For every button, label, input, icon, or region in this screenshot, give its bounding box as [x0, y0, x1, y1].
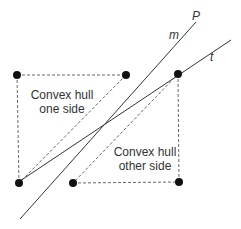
convex-hull-diagram: P m t Convex hull one side Convex hull o…	[0, 0, 241, 229]
point-top-left	[13, 71, 21, 79]
label-p: P	[192, 9, 200, 23]
label-m: m	[169, 28, 179, 42]
hull-one-line2: one side	[27, 102, 97, 116]
point-bottom-right	[175, 178, 183, 186]
hull-one-line1: Convex hull	[27, 88, 97, 102]
hull-other-side-label: Convex hull other side	[110, 145, 180, 173]
label-t: t	[210, 50, 213, 64]
point-top-right	[174, 70, 182, 78]
point-top-middle	[122, 71, 130, 79]
hull-other-line1: Convex hull	[110, 145, 180, 159]
point-bottom-middle	[69, 179, 77, 187]
point-bottom-left	[15, 179, 23, 187]
hull-one-side-label: Convex hull one side	[27, 88, 97, 116]
hull-other-line2: other side	[110, 159, 180, 173]
line-m	[20, 22, 196, 219]
